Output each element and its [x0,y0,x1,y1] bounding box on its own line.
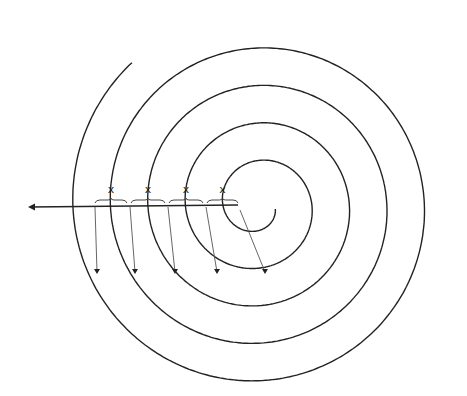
spacing-label: x [108,183,115,196]
radial-arrow [168,207,175,272]
arrowhead-icon [132,269,138,274]
radial-arrow [130,207,135,272]
axis-arrowhead-icon [28,204,35,211]
spacing-label: x [183,183,190,196]
spiral-diagram: xxxx [0,0,467,396]
spacing-label: x [145,183,152,196]
radial-arrow [95,207,97,272]
horizontal-axis-arrow [30,205,238,207]
spacing-brace [169,198,203,203]
spacing-label: x [219,183,226,196]
radial-arrow [206,207,217,272]
arrowhead-icon [262,269,268,274]
radial-arrow [240,210,265,272]
arrowhead-icon [214,269,220,274]
arrowhead-icon [94,269,100,274]
spiral-curve [73,48,425,381]
